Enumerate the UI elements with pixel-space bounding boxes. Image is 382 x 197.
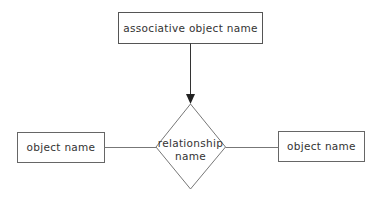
relationship-node: relationship name: [156, 104, 226, 189]
left-object-node: object name: [18, 133, 105, 163]
relationship-label-line2: name: [175, 150, 206, 162]
right-object-label: object name: [287, 140, 356, 152]
left-object-label: object name: [27, 141, 96, 153]
arrowhead-icon: [186, 94, 195, 104]
right-object-node: object name: [279, 132, 365, 162]
associative-object-label: associative object name: [123, 22, 257, 34]
arrow-assoc-to-relationship: [186, 44, 195, 105]
associative-object-node: associative object name: [119, 13, 263, 44]
relationship-label-line1: relationship: [158, 137, 223, 149]
diagram-svg: associative object name relationship nam…: [0, 0, 382, 197]
er-diagram: associative object name relationship nam…: [0, 0, 382, 197]
